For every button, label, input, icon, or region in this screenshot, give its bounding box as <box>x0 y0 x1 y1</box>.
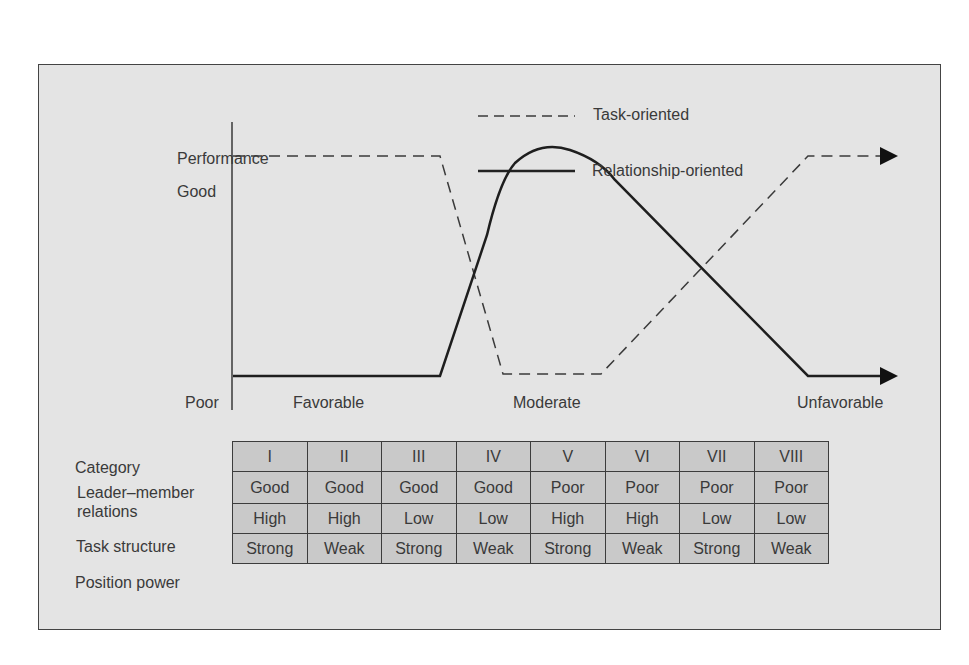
x-zone-unfavorable: Unfavorable <box>797 394 883 412</box>
row-label-leader-member-1: Leader–member <box>77 484 194 501</box>
table-cell: High <box>233 504 308 534</box>
table-cell: Low <box>680 504 755 534</box>
situation-table: I II III IV V VI VII VIII Good Good Good… <box>232 441 829 564</box>
table-cell: Weak <box>605 534 680 564</box>
table-cell: High <box>531 504 606 534</box>
table-cell: III <box>382 442 457 472</box>
table-cell: VII <box>680 442 755 472</box>
row-label-position-power: Position power <box>75 574 180 591</box>
table-cell: Low <box>456 504 531 534</box>
table-cell: Weak <box>307 534 382 564</box>
chart-plot <box>0 0 969 665</box>
table-cell: Strong <box>233 534 308 564</box>
table-cell: Strong <box>531 534 606 564</box>
table-row-leader-member: Good Good Good Good Poor Poor Poor Poor <box>233 472 829 504</box>
table-cell: I <box>233 442 308 472</box>
arrow-right-icon <box>880 367 898 385</box>
legend-task-label: Task-oriented <box>593 106 689 124</box>
table-cell: Poor <box>531 472 606 504</box>
table-cell: Weak <box>456 534 531 564</box>
arrow-right-icon <box>880 147 898 165</box>
legend-relationship-label: Relationship-oriented <box>592 162 743 180</box>
table-cell: VI <box>605 442 680 472</box>
x-zone-favorable: Favorable <box>293 394 364 412</box>
table-cell: Good <box>233 472 308 504</box>
table-cell: Low <box>754 504 829 534</box>
y-tick-poor: Poor <box>185 394 219 412</box>
table-cell: Good <box>307 472 382 504</box>
x-zone-moderate: Moderate <box>513 394 581 412</box>
y-axis-title: Performance <box>177 150 269 168</box>
table-cell: Poor <box>754 472 829 504</box>
table-cell: High <box>605 504 680 534</box>
table-cell: Strong <box>680 534 755 564</box>
table-cell: Poor <box>605 472 680 504</box>
table-row-category: I II III IV V VI VII VIII <box>233 442 829 472</box>
task-oriented-line <box>233 156 880 374</box>
table-cell: IV <box>456 442 531 472</box>
table-cell: Low <box>382 504 457 534</box>
table-cell: Strong <box>382 534 457 564</box>
row-label-leader-member-2: relations <box>77 503 137 520</box>
row-label-task-structure: Task structure <box>76 538 176 555</box>
table-cell: Poor <box>680 472 755 504</box>
y-tick-good: Good <box>177 183 216 201</box>
table-cell: High <box>307 504 382 534</box>
table-cell: Good <box>456 472 531 504</box>
table-cell: Good <box>382 472 457 504</box>
table-cell: VIII <box>754 442 829 472</box>
table-row-position-power: Strong Weak Strong Weak Strong Weak Stro… <box>233 534 829 564</box>
table-cell: II <box>307 442 382 472</box>
table-cell: Weak <box>754 534 829 564</box>
table-cell: V <box>531 442 606 472</box>
table-row-task-structure: High High Low Low High High Low Low <box>233 504 829 534</box>
row-label-category: Category <box>75 459 140 476</box>
